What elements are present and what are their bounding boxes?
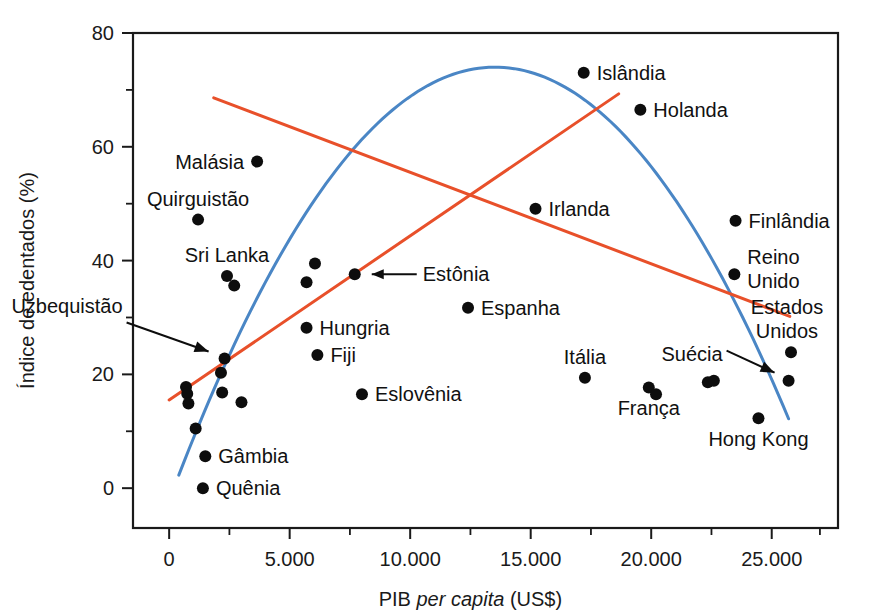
data-point-group: [221, 270, 233, 282]
data-point: [199, 450, 211, 462]
data-point: [752, 412, 764, 424]
data-point: [197, 482, 209, 494]
point-label: ReinoUnido: [747, 246, 799, 292]
data-point: [650, 388, 662, 400]
data-point: [578, 67, 590, 79]
data-point: [216, 387, 228, 399]
data-point-group: [530, 203, 542, 215]
point-label: Quênia: [216, 477, 281, 499]
suecia-leader-arrowhead: [760, 362, 775, 373]
y-axis-tick-label: 0: [103, 477, 114, 499]
data-point: [215, 367, 227, 379]
point-label: Gâmbia: [218, 445, 289, 467]
data-point-group: [219, 352, 231, 364]
data-point: [356, 388, 368, 400]
data-point-group: [349, 268, 361, 280]
data-point: [730, 215, 742, 227]
point-label: França: [618, 397, 681, 419]
data-point-group: [301, 276, 313, 288]
point-label: Holanda: [653, 99, 728, 121]
uzbequistao-leader-arrowhead: [194, 342, 209, 352]
point-label: EstadosUnidos: [751, 296, 823, 342]
point-label: Malásia: [175, 151, 245, 173]
point-label: Eslovênia: [375, 383, 463, 405]
data-point-group: [578, 67, 590, 79]
data-point-group: [215, 367, 227, 379]
data-point-group: [783, 375, 795, 387]
data-point: [228, 280, 240, 292]
data-point: [301, 322, 313, 334]
y-axis-tick-label: 20: [92, 363, 114, 385]
data-point: [190, 422, 202, 434]
x-axis-tick-label: 0: [164, 548, 175, 570]
scatter-plot-figure: 05.00010.00015.00020.00025.000020406080Í…: [0, 0, 881, 616]
data-point-group: [197, 482, 209, 494]
data-point-group: [579, 372, 591, 384]
data-point: [462, 302, 474, 314]
point-label: Irlanda: [549, 198, 611, 220]
y-axis-tick-label: 40: [92, 250, 114, 272]
data-point-group: [301, 322, 313, 334]
data-point: [783, 375, 795, 387]
data-point-group: [785, 346, 797, 358]
data-point-group: [650, 388, 662, 400]
data-point: [311, 349, 323, 361]
estonia-leader-arrowhead: [372, 269, 384, 279]
data-point: [728, 268, 740, 280]
data-point: [221, 270, 233, 282]
y-axis-tick-label: 60: [92, 136, 114, 158]
data-point-group: [728, 268, 740, 280]
data-point-group: [708, 375, 720, 387]
data-point: [219, 352, 231, 364]
data-point-group: [192, 214, 204, 226]
data-point-group: [190, 422, 202, 434]
data-point: [634, 104, 646, 116]
point-label: Suécia: [661, 343, 723, 365]
point-label: Hong Kong: [708, 428, 808, 450]
data-point: [192, 214, 204, 226]
data-point: [579, 372, 591, 384]
point-label: Itália: [564, 346, 607, 368]
point-label: Uzbequistão: [11, 295, 122, 317]
chart-canvas: 05.00010.00015.00020.00025.000020406080Í…: [0, 0, 881, 616]
point-label: Islândia: [597, 62, 667, 84]
x-axis-title: PIB per capita (US$): [379, 588, 562, 610]
data-point-group: [752, 412, 764, 424]
x-axis-tick-label: 10.000: [380, 548, 441, 570]
data-point: [785, 346, 797, 358]
data-point: [349, 268, 361, 280]
data-point-group: [251, 156, 263, 168]
data-point-group: [228, 280, 240, 292]
data-point: [530, 203, 542, 215]
point-label: Hungria: [320, 317, 391, 339]
point-label: Fiji: [330, 344, 356, 366]
y-axis-tick-label: 80: [92, 22, 114, 44]
data-point: [708, 375, 720, 387]
point-label: Quirguistão: [147, 188, 249, 210]
data-point: [251, 156, 263, 168]
data-point-group: [462, 302, 474, 314]
data-point: [309, 257, 321, 269]
data-point-group: [311, 349, 323, 361]
point-label: Sri Lanka: [185, 244, 270, 266]
y-axis-title: Índice de edentados (%): [16, 172, 38, 389]
data-point-group: [199, 450, 211, 462]
point-label: Finlândia: [749, 210, 831, 232]
x-axis-tick-label: 5.000: [265, 548, 315, 570]
data-point-group: [182, 397, 194, 409]
data-point: [235, 396, 247, 408]
x-axis-tick-label: 25.000: [741, 548, 802, 570]
x-axis-tick-label: 20.000: [621, 548, 682, 570]
point-label: Espanha: [481, 297, 561, 319]
data-point-group: [235, 396, 247, 408]
trend-line-descending-regression: [214, 98, 790, 316]
data-point: [301, 276, 313, 288]
data-point: [182, 397, 194, 409]
data-point-group: [356, 388, 368, 400]
data-point-group: [634, 104, 646, 116]
data-point-group: [309, 257, 321, 269]
x-axis-tick-label: 15.000: [500, 548, 561, 570]
point-label: Estônia: [423, 263, 491, 285]
data-point-group: [730, 215, 742, 227]
data-point-group: [216, 387, 228, 399]
